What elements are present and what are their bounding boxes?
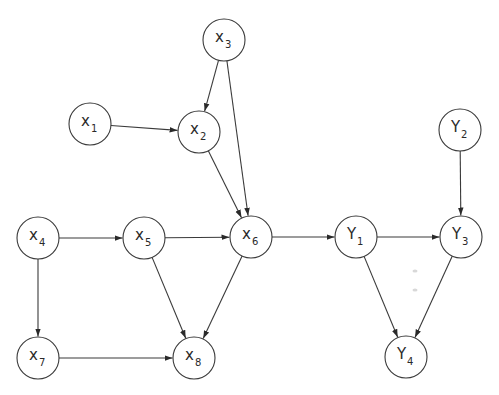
node-label: x xyxy=(242,225,251,243)
node-circle xyxy=(203,19,245,61)
node-label: Y xyxy=(450,118,461,136)
edge-y1-to-y4 xyxy=(364,256,398,337)
smudge-marks xyxy=(413,270,418,292)
node-x7: x7 xyxy=(17,337,59,379)
node-y2: Y2 xyxy=(439,109,481,151)
node-label: x xyxy=(29,346,38,364)
node-subscript: 2 xyxy=(200,131,206,142)
node-label: Y xyxy=(451,225,462,243)
node-x3: x3 xyxy=(203,19,245,61)
edge-x3-to-x2 xyxy=(205,60,219,111)
node-circle xyxy=(178,111,220,153)
node-y3: Y3 xyxy=(440,216,482,258)
edges-layer xyxy=(38,60,461,358)
node-x5: x5 xyxy=(123,217,165,259)
edge-x6-to-x8 xyxy=(203,256,242,339)
node-circle xyxy=(173,337,215,379)
node-label: x xyxy=(81,112,90,130)
node-subscript: 1 xyxy=(91,123,97,134)
node-subscript: 8 xyxy=(195,357,201,368)
node-label: x xyxy=(29,226,38,244)
edge-x3-to-x6 xyxy=(227,61,248,216)
node-label: x xyxy=(190,120,199,138)
node-label: Y xyxy=(346,225,357,243)
node-subscript: 3 xyxy=(462,236,468,247)
node-x4: x4 xyxy=(17,217,59,259)
edge-x5-to-x8 xyxy=(152,257,186,338)
node-circle xyxy=(230,216,272,258)
edge-x1-to-x2 xyxy=(111,126,178,131)
node-y1: Y1 xyxy=(335,216,377,258)
edge-y3-to-y4 xyxy=(415,256,452,337)
node-subscript: 2 xyxy=(461,129,467,140)
node-circle xyxy=(123,217,165,259)
node-label: x xyxy=(185,346,194,364)
node-subscript: 4 xyxy=(39,237,45,248)
node-circle xyxy=(17,337,59,379)
node-label: Y xyxy=(396,345,407,363)
node-x8: x8 xyxy=(173,337,215,379)
node-subscript: 5 xyxy=(145,237,151,248)
node-circle xyxy=(69,103,111,145)
node-y4: Y4 xyxy=(385,336,427,378)
node-subscript: 7 xyxy=(39,357,45,368)
node-subscript: 3 xyxy=(225,39,231,50)
node-label: x xyxy=(135,226,144,244)
node-x1: x1 xyxy=(69,103,111,145)
dag-diagram: x1x2x3x4x5x6x7x8Y1Y2Y3Y4 xyxy=(0,0,499,395)
node-subscript: 4 xyxy=(407,356,413,367)
node-subscript: 6 xyxy=(252,236,258,247)
edge-y2-to-y3 xyxy=(460,151,461,216)
node-label: x xyxy=(215,28,224,46)
edge-x5-to-x6 xyxy=(165,237,230,238)
node-x6: x6 xyxy=(230,216,272,258)
node-circle xyxy=(17,217,59,259)
nodes-layer: x1x2x3x4x5x6x7x8Y1Y2Y3Y4 xyxy=(17,19,482,379)
node-subscript: 1 xyxy=(357,236,363,247)
edge-x2-to-x6 xyxy=(208,151,241,218)
node-x2: x2 xyxy=(178,111,220,153)
